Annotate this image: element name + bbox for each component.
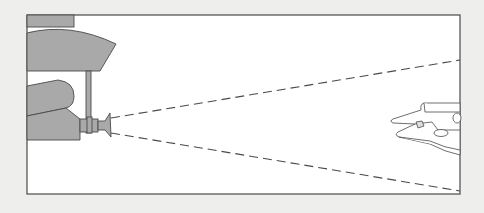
illustration <box>0 0 484 213</box>
